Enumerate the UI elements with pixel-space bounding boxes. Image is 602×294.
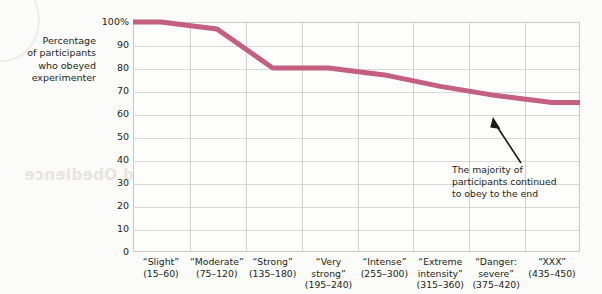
x-tick-line: “Very <box>301 256 357 268</box>
y-axis-tick-labels: 100%9080706050403020100 <box>95 22 129 252</box>
x-tick-line: “Strong” <box>245 256 301 268</box>
y-axis-tick-label: 50 <box>95 132 129 142</box>
annotation-line-2: participants continued <box>452 176 572 188</box>
gridline-vertical <box>302 23 303 251</box>
x-tick-range: (255–300) <box>357 268 413 280</box>
gridline-vertical <box>246 23 247 251</box>
x-axis-tick-label: “Strong”(135–180) <box>245 256 301 279</box>
chart-page: rs Ensuring Conformity and Obedience Nat… <box>0 0 602 294</box>
y-axis-tick-label: 80 <box>95 63 129 73</box>
y-axis-tick-label: 20 <box>95 201 129 211</box>
x-tick-line: strong” <box>301 268 357 280</box>
gridline-vertical <box>190 23 191 251</box>
x-axis-tick-label: “XXX”(435–450) <box>524 256 580 279</box>
chart-annotation: The majority of participants continued t… <box>452 164 572 199</box>
y-axis-tick-label: 70 <box>95 86 129 96</box>
gridline-horizontal <box>134 69 579 70</box>
y-axis-tick-label: 0 <box>95 247 129 257</box>
annotation-line-1: The majority of <box>452 164 572 176</box>
x-tick-line: “Danger: <box>468 256 524 268</box>
x-tick-line: severe” <box>468 268 524 280</box>
y-axis-tick-label: 40 <box>95 155 129 165</box>
annotation-line-3: to obey to the end <box>452 188 572 200</box>
gridline-horizontal <box>134 230 579 231</box>
y-axis-title-line-3: who obeyed <box>8 60 96 72</box>
x-axis-tick-labels: “Slight”(15–60)“Moderate”(75–120)“Strong… <box>133 256 580 294</box>
gridline-horizontal <box>134 46 579 47</box>
x-tick-range: (75–120) <box>189 268 245 280</box>
plot-area <box>133 22 580 252</box>
gridline-vertical <box>413 23 414 251</box>
y-axis-title-line-2: of participants <box>8 47 96 59</box>
x-axis-tick-label: “Intense”(255–300) <box>357 256 413 279</box>
y-axis-title-line-4: experimenter <box>8 72 96 84</box>
gridline-horizontal <box>134 92 579 93</box>
x-tick-range: (435–450) <box>524 268 580 280</box>
y-axis-title: Percentage of participants who obeyed ex… <box>8 35 96 85</box>
x-axis-tick-label: “Extremeintensity”(315–360) <box>412 256 468 291</box>
x-tick-line: “Extreme <box>412 256 468 268</box>
x-tick-range: (195–240) <box>301 279 357 291</box>
gridline-horizontal <box>134 138 579 139</box>
y-axis-title-line-1: Percentage <box>8 35 96 47</box>
x-axis-tick-label: “Danger:severe”(375–420) <box>468 256 524 291</box>
y-axis-tick-label: 30 <box>95 178 129 188</box>
y-axis-tick-label: 90 <box>95 40 129 50</box>
x-tick-line: “Slight” <box>133 256 189 268</box>
gridline-horizontal <box>134 161 579 162</box>
gridline-horizontal <box>134 207 579 208</box>
x-tick-range: (15–60) <box>133 268 189 280</box>
x-tick-line: “XXX” <box>524 256 580 268</box>
x-tick-line: “Moderate” <box>189 256 245 268</box>
gridline-vertical <box>525 23 526 251</box>
x-tick-line: intensity” <box>412 268 468 280</box>
x-axis-tick-label: “Verystrong”(195–240) <box>301 256 357 291</box>
x-axis-tick-label: “Moderate”(75–120) <box>189 256 245 279</box>
x-tick-range: (135–180) <box>245 268 301 280</box>
gridline-vertical <box>358 23 359 251</box>
y-axis-tick-label: 10 <box>95 224 129 234</box>
x-tick-range: (375–420) <box>468 279 524 291</box>
x-tick-range: (315–360) <box>412 279 468 291</box>
y-axis-tick-label: 100% <box>95 17 129 27</box>
x-axis-tick-label: “Slight”(15–60) <box>133 256 189 279</box>
gridline-horizontal <box>134 115 579 116</box>
x-tick-line: “Intense” <box>357 256 413 268</box>
y-axis-tick-label: 60 <box>95 109 129 119</box>
gridline-vertical <box>469 23 470 251</box>
